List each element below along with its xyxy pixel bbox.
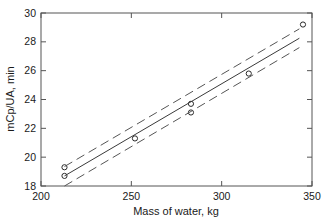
- scatter-plot-svg: 20025030035018202224262830 Mass of water…: [0, 0, 328, 224]
- y-tick-label: 18: [24, 180, 36, 192]
- y-tick-label: 22: [24, 122, 36, 134]
- y-tick-label: 26: [24, 64, 36, 76]
- y-tick-label: 20: [24, 151, 36, 163]
- x-tick-label: 200: [32, 190, 50, 202]
- x-tick-label: 300: [213, 190, 231, 202]
- x-tick-label: 350: [303, 190, 321, 202]
- x-axis-label: Mass of water, kg: [133, 205, 219, 217]
- y-tick-label: 30: [24, 7, 36, 19]
- x-tick-label: 250: [123, 190, 141, 202]
- y-axis-label: mCp/UA, min: [4, 66, 16, 131]
- y-tick-label: 24: [24, 93, 36, 105]
- y-tick-label: 28: [24, 35, 36, 47]
- figure-container: 20025030035018202224262830 Mass of water…: [0, 0, 328, 224]
